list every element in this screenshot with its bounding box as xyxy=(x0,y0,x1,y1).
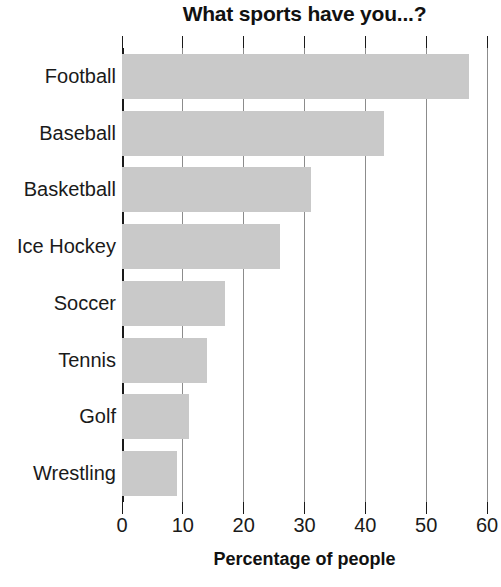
category-label: Tennis xyxy=(58,338,116,383)
bar xyxy=(122,111,384,156)
bar xyxy=(122,451,177,496)
category-label: Golf xyxy=(79,394,116,439)
tick-top-50 xyxy=(426,36,427,48)
x-tick-label: 20 xyxy=(233,514,255,537)
tick-top-10 xyxy=(182,36,183,48)
tick-top-40 xyxy=(365,36,366,48)
x-tick-label: 10 xyxy=(172,514,194,537)
x-axis-title: Percentage of people xyxy=(122,549,487,570)
category-label: Wrestling xyxy=(33,451,116,496)
tick-bottom-60 xyxy=(487,502,488,514)
tick-top-20 xyxy=(243,36,244,48)
x-tick-label: 60 xyxy=(476,514,498,537)
category-label: Soccer xyxy=(54,281,116,326)
value-axis-tick-labels: 0102030405060 xyxy=(122,514,487,542)
bar xyxy=(122,394,189,439)
tick-bottom-50 xyxy=(426,502,427,514)
bar xyxy=(122,224,280,269)
category-label: Football xyxy=(45,54,116,99)
bars-group xyxy=(122,48,487,502)
tick-top-30 xyxy=(304,36,305,48)
tick-top-0 xyxy=(122,36,123,48)
tick-bottom-10 xyxy=(182,502,183,514)
x-tick-label: 0 xyxy=(116,514,127,537)
bar xyxy=(122,281,225,326)
x-tick-label: 30 xyxy=(293,514,315,537)
tick-bottom-40 xyxy=(365,502,366,514)
plot-area xyxy=(122,48,487,502)
category-label: Baseball xyxy=(39,111,116,156)
category-label: Basketball xyxy=(24,167,116,212)
category-axis-labels: FootballBaseballBasketballIce HockeySocc… xyxy=(0,48,116,502)
tick-bottom-0 xyxy=(122,502,123,514)
tick-top-60 xyxy=(487,36,488,48)
tick-bottom-30 xyxy=(304,502,305,514)
category-label: Ice Hockey xyxy=(17,224,116,269)
bar xyxy=(122,167,311,212)
x-tick-label: 40 xyxy=(354,514,376,537)
bar xyxy=(122,338,207,383)
chart-title: What sports have you...? xyxy=(122,2,487,26)
bar xyxy=(122,54,469,99)
bar-chart: What sports have you...? FootballBasebal… xyxy=(0,0,501,587)
tick-bottom-20 xyxy=(243,502,244,514)
x-tick-label: 50 xyxy=(415,514,437,537)
